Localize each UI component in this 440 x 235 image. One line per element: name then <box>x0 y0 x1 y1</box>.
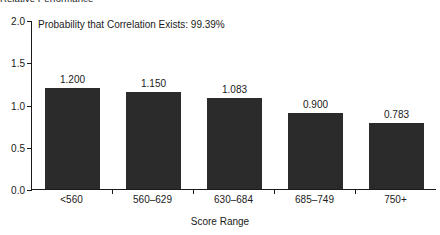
plot-area: 0.00.51.01.52.0 1.2001.1501.0830.9000.78… <box>31 21 436 190</box>
y-tick-label: 0.5 <box>11 142 25 153</box>
bar[interactable] <box>369 123 424 189</box>
chart-title: Relative Performance <box>0 0 93 4</box>
y-tick-label: 1.5 <box>11 58 25 69</box>
bar[interactable] <box>288 113 343 189</box>
bar-series: 1.2001.1501.0830.9000.783 <box>32 21 436 189</box>
bar-group[interactable]: 1.200 <box>45 20 100 189</box>
x-category-label: 750+ <box>355 194 436 205</box>
bar[interactable] <box>207 98 262 190</box>
x-category-label: 630–684 <box>193 194 274 205</box>
x-category-label: 685–749 <box>274 194 355 205</box>
bar-value-label: 1.200 <box>60 74 85 85</box>
bar-group[interactable]: 1.150 <box>126 20 181 189</box>
bar-value-label: 0.900 <box>303 99 328 110</box>
bar-value-label: 1.150 <box>141 78 166 89</box>
y-tick-label: 0.0 <box>11 185 25 196</box>
y-tick-mark <box>27 190 32 191</box>
bar-group[interactable]: 0.900 <box>288 20 343 189</box>
bar-value-label: 0.783 <box>384 109 409 120</box>
x-axis-line <box>31 189 436 190</box>
x-axis-title: Score Range <box>0 216 440 227</box>
x-category-label: 560–629 <box>112 194 193 205</box>
bar-group[interactable]: 0.783 <box>369 20 424 189</box>
bar-value-label: 1.083 <box>222 84 247 95</box>
bar[interactable] <box>45 88 100 189</box>
y-tick-label: 1.0 <box>11 100 25 111</box>
bar[interactable] <box>126 92 181 189</box>
x-category-label: <560 <box>31 194 112 205</box>
bar-chart: Relative Performance Probability that Co… <box>0 0 440 235</box>
y-tick-label: 2.0 <box>11 16 25 27</box>
bar-group[interactable]: 1.083 <box>207 20 262 189</box>
